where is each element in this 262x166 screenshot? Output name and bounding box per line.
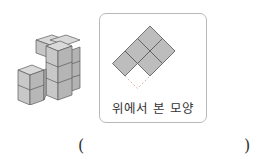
top-view-caption: 위에서 본 모양 (100, 98, 206, 117)
cube-stack-icon (14, 30, 84, 105)
top-view-diagram (100, 14, 208, 98)
answer-close-paren: ) (244, 136, 250, 155)
top-view-card: 위에서 본 모양 (99, 13, 207, 123)
answer-open-paren: ( (78, 136, 84, 155)
cube-stack-figure (14, 30, 84, 105)
